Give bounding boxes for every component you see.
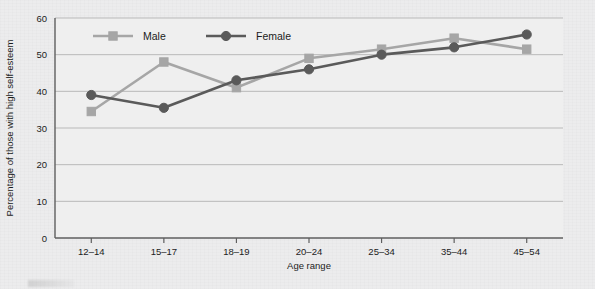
data-point-female — [159, 103, 168, 112]
data-point-male — [87, 107, 95, 115]
y-tick-label: 50 — [36, 49, 47, 60]
chart-figure: 0102030405060 12–1415–1718–1920–2425–343… — [0, 0, 595, 289]
y-tick-label: 10 — [36, 196, 47, 207]
y-axis-tick-labels: 0102030405060 — [36, 13, 47, 244]
data-point-male — [450, 34, 458, 42]
data-point-male — [523, 45, 531, 53]
x-tick-label: 45–54 — [514, 246, 540, 257]
data-point-female — [304, 65, 313, 74]
data-point-female — [87, 90, 96, 99]
data-point-male — [160, 58, 168, 66]
data-point-female — [522, 30, 531, 39]
legend-marker-male — [109, 32, 117, 40]
y-tick-label: 0 — [42, 233, 47, 244]
y-tick-label: 60 — [36, 13, 47, 24]
x-tick-label: 25–34 — [368, 246, 394, 257]
x-tick-label: 12–14 — [78, 246, 104, 257]
x-tick-label: 15–17 — [151, 246, 177, 257]
data-point-female — [450, 43, 459, 52]
data-point-female — [232, 76, 241, 85]
x-axis-title: Age range — [287, 260, 331, 271]
y-tick-label: 30 — [36, 123, 47, 134]
x-tick-label: 35–44 — [441, 246, 467, 257]
legend-label-female: Female — [256, 30, 291, 42]
x-axis-ticks — [91, 238, 526, 243]
y-tick-label: 40 — [36, 86, 47, 97]
data-point-male — [305, 54, 313, 62]
x-tick-label: 20–24 — [296, 246, 322, 257]
x-tick-label: 18–19 — [223, 246, 249, 257]
y-axis-title: Percentage of those with high self-estee… — [4, 39, 15, 216]
x-axis-tick-labels: 12–1415–1718–1920–2425–3435–4445–54 — [78, 246, 540, 257]
y-tick-label: 20 — [36, 159, 47, 170]
legend-label-male: Male — [143, 30, 166, 42]
line-chart: 0102030405060 12–1415–1718–1920–2425–343… — [0, 0, 595, 289]
legend-marker-female — [221, 31, 230, 40]
data-point-female — [377, 50, 386, 59]
